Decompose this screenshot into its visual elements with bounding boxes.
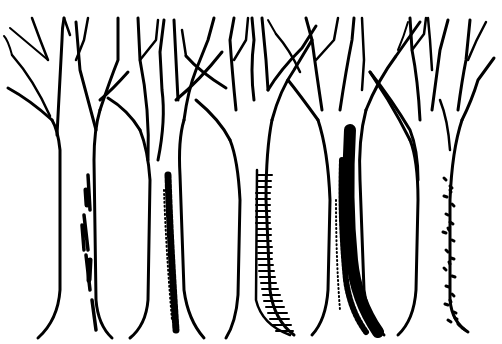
tree-illustration	[0, 0, 502, 344]
tree-drawing	[0, 0, 502, 344]
